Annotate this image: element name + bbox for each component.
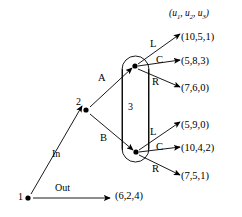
information-set-label-3: 3: [128, 102, 133, 112]
payoff-bot-c: (10,4,2): [181, 143, 214, 154]
edge-label-b: B: [100, 133, 107, 144]
payoff-top-c: (5,8,3): [181, 56, 209, 67]
header-prefix: (u: [169, 8, 177, 18]
node-1[interactable]: [25, 195, 30, 200]
edge-label-bot-c: C: [156, 142, 163, 153]
payoff-vector-header: (u1, u2, u3): [169, 9, 209, 20]
node-3-upper[interactable]: [132, 63, 137, 68]
node-2[interactable]: [83, 107, 88, 112]
payoff-top-l: (10,5,1): [181, 32, 214, 43]
payoff-out: (6,2,4): [115, 191, 143, 202]
payoff-bot-l: (5,9,0): [181, 120, 209, 131]
header-mid-1: , u: [180, 8, 190, 18]
node-3-lower[interactable]: [133, 149, 138, 154]
edge-label-in: In: [52, 149, 60, 159]
edge-label-out: Out: [55, 183, 70, 193]
node-label-1: 1: [18, 192, 23, 202]
edge-label-a: A: [98, 73, 106, 84]
node-label-2: 2: [76, 97, 81, 107]
edge-label-top-c: C: [156, 55, 163, 66]
edge-label-bot-r: R: [152, 164, 159, 175]
payoff-bot-r: (7,5,1): [181, 171, 209, 182]
edge-label-top-r: R: [152, 77, 159, 88]
header-suffix: ): [206, 8, 209, 18]
edge-b: [90, 114, 133, 150]
edge-label-bot-l: L: [150, 127, 156, 138]
payoff-top-r: (7,6,0): [181, 83, 209, 94]
edge-bot-r: [139, 155, 180, 175]
edge-a: [90, 68, 132, 107]
header-mid-2: , u: [193, 8, 203, 18]
edge-label-top-l: L: [150, 39, 156, 50]
game-tree-figure: (u1, u2, u3) 1 2 3 Out In A B L C R L C …: [0, 0, 242, 217]
